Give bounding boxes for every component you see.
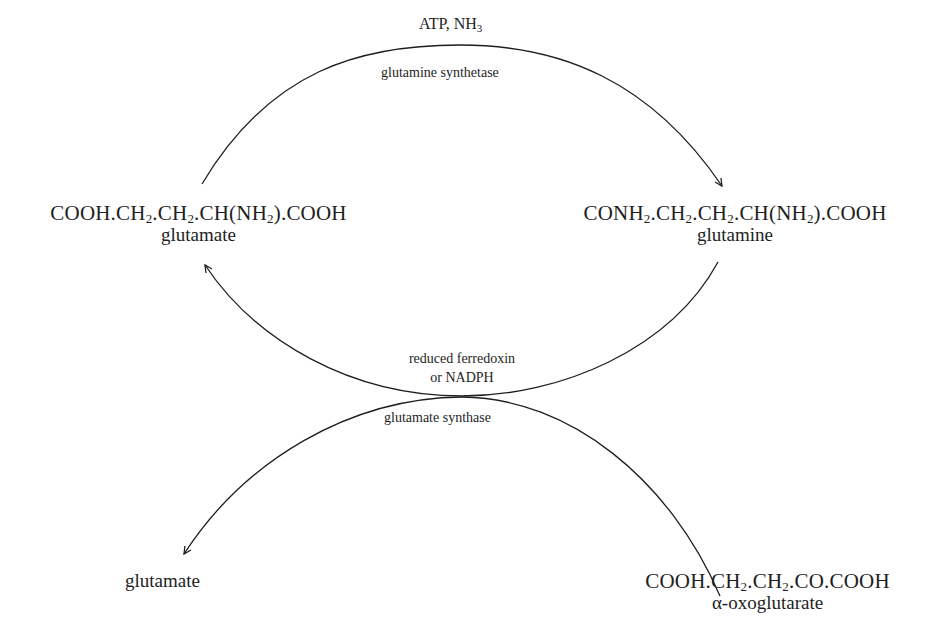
middle-cofactors: reduced ferredoxin or NADPH — [372, 349, 552, 387]
compound-glutamate-left: COOH.CH2.CH2.CH(NH2).COOH glutamate — [6, 202, 391, 246]
formula-glutamine: CONH2.CH2.CH2.CH(NH2).COOH — [540, 202, 930, 224]
formula-glutamate: COOH.CH2.CH2.CH(NH2).COOH — [6, 202, 391, 224]
cofactors-text: ATP, NH — [419, 15, 477, 32]
enzyme-glutamate-synthase: glutamate synthase — [384, 410, 491, 426]
name-alpha-oxoglutarate: α-oxoglutarate — [600, 592, 933, 614]
cofactor-line-2: or NADPH — [372, 368, 552, 387]
compound-glutamate-bottom: glutamate — [125, 570, 200, 592]
formula-alpha-oxoglutarate: COOH.CH2.CH2.CO.COOH — [600, 570, 933, 592]
reaction-arrows — [0, 0, 933, 630]
cofactor-line-1: reduced ferredoxin — [372, 349, 552, 368]
top-cofactors: ATP, NH3 — [419, 15, 482, 33]
compound-glutamine: CONH2.CH2.CH2.CH(NH2).COOH glutamine — [540, 202, 930, 246]
name-glutamine: glutamine — [540, 224, 930, 246]
compound-alpha-oxoglutarate: COOH.CH2.CH2.CO.COOH α-oxoglutarate — [600, 570, 933, 614]
name-glutamate: glutamate — [6, 224, 391, 246]
cofactors-subscript: 3 — [477, 22, 483, 34]
enzyme-glutamine-synthetase: glutamine synthetase — [381, 65, 499, 81]
glutamate-synthase-product-arrow — [184, 397, 720, 596]
